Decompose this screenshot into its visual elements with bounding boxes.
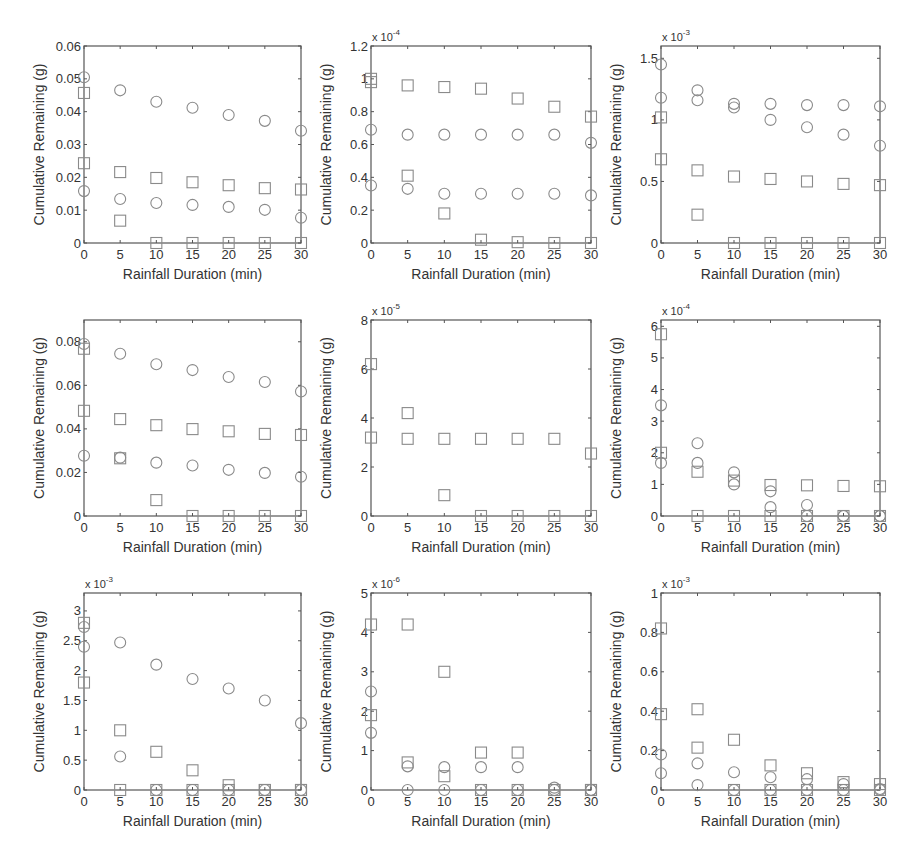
subplot-2: 05101520253000.20.40.60.811.2x 10-4Rainf…: [318, 28, 598, 282]
x-tick-label: 5: [117, 520, 124, 535]
y-tick-label: 0: [74, 236, 81, 251]
x-tick-label: 30: [584, 794, 598, 809]
x-tick-label: 5: [117, 794, 124, 809]
figure-grid: 05101520253000.010.020.030.040.050.06Rai…: [0, 0, 918, 862]
x-tick-label: 20: [800, 520, 814, 535]
x-tick-label: 25: [547, 247, 561, 262]
axes-frame: [661, 593, 880, 790]
x-tick-label: 5: [694, 247, 701, 262]
x-tick-label: 10: [727, 247, 741, 262]
x-tick-label: 0: [657, 520, 664, 535]
y-exponent-label: x 10-4: [372, 28, 400, 43]
y-tick-label: 0.6: [350, 137, 368, 152]
axes-frame: [371, 593, 591, 790]
x-tick-label: 25: [547, 520, 561, 535]
subplot-1: 05101520253000.010.020.030.040.050.06Rai…: [31, 39, 308, 283]
subplot-7: 05101520253000.511.522.53x 10-3Rainfall …: [31, 575, 308, 829]
axes-frame: [371, 46, 591, 243]
x-tick-label: 30: [873, 520, 887, 535]
x-tick-label: 5: [117, 247, 124, 262]
axes-frame: [661, 320, 880, 516]
y-tick-label: 3: [74, 603, 81, 618]
x-tick-label: 0: [80, 247, 87, 262]
y-tick-label: 8: [361, 313, 368, 328]
x-tick-label: 20: [221, 520, 235, 535]
y-tick-label: 3: [651, 414, 658, 429]
y-tick-label: 4: [651, 382, 658, 397]
x-tick-label: 10: [149, 520, 163, 535]
x-tick-label: 15: [763, 247, 777, 262]
axes-frame: [371, 320, 591, 516]
y-tick-label: 0.06: [56, 39, 81, 54]
y-tick-label: 2: [361, 704, 368, 719]
y-tick-label: 0.01: [56, 203, 81, 218]
y-tick-label: 6: [651, 319, 658, 334]
y-tick-label: 6: [361, 362, 368, 377]
x-tick-label: 15: [474, 247, 488, 262]
x-tick-label: 25: [258, 520, 272, 535]
x-tick-label: 25: [547, 794, 561, 809]
y-tick-label: 0.02: [56, 465, 81, 480]
x-tick-label: 0: [657, 794, 664, 809]
y-axis-label: Cumulative Remaining (g): [318, 337, 334, 499]
y-axis-label: Cumulative Remaining (g): [31, 64, 47, 226]
x-tick-label: 10: [437, 520, 451, 535]
y-tick-label: 0.8: [350, 104, 368, 119]
y-tick-label: 0: [651, 783, 658, 798]
y-axis-label: Cumulative Remaining (g): [608, 611, 624, 773]
x-tick-label: 30: [873, 794, 887, 809]
y-tick-label: 0.08: [56, 334, 81, 349]
y-exponent-label: x 10-3: [662, 575, 690, 590]
x-tick-label: 30: [873, 247, 887, 262]
x-tick-label: 15: [474, 520, 488, 535]
x-tick-label: 20: [510, 247, 524, 262]
y-tick-label: 2: [74, 663, 81, 678]
x-tick-label: 25: [836, 247, 850, 262]
x-axis-label: Rainfall Duration (min): [123, 539, 262, 555]
x-tick-label: 10: [437, 247, 451, 262]
x-tick-label: 25: [258, 794, 272, 809]
y-tick-label: 0.5: [63, 753, 81, 768]
y-tick-label: 1: [651, 112, 658, 127]
y-tick-label: 4: [361, 411, 368, 426]
x-tick-label: 20: [510, 520, 524, 535]
x-tick-label: 10: [727, 520, 741, 535]
x-tick-label: 0: [367, 794, 374, 809]
y-axis-label: Cumulative Remaining (g): [31, 337, 47, 499]
x-tick-label: 25: [258, 247, 272, 262]
x-tick-label: 25: [836, 794, 850, 809]
subplot-6: 0510152025300123456x 10-4Rainfall Durati…: [608, 302, 887, 555]
x-tick-label: 5: [404, 520, 411, 535]
x-tick-label: 15: [185, 247, 199, 262]
x-tick-label: 5: [404, 247, 411, 262]
x-tick-label: 0: [367, 520, 374, 535]
x-tick-label: 30: [584, 520, 598, 535]
y-exponent-label: x 10-4: [662, 302, 690, 317]
y-tick-label: 0: [651, 236, 658, 251]
x-tick-label: 15: [185, 520, 199, 535]
y-tick-label: 0: [74, 509, 81, 524]
subplot-4: 05101520253000.020.040.060.08Rainfall Du…: [31, 320, 308, 555]
y-tick-label: 0: [361, 509, 368, 524]
x-tick-label: 15: [185, 794, 199, 809]
x-axis-label: Rainfall Duration (min): [411, 539, 550, 555]
x-tick-label: 5: [404, 794, 411, 809]
y-tick-label: 1: [651, 477, 658, 492]
subplot-9: 05101520253000.20.40.60.81x 10-3Rainfall…: [608, 575, 887, 829]
y-tick-label: 2: [361, 460, 368, 475]
x-tick-label: 15: [474, 794, 488, 809]
x-axis-label: Rainfall Duration (min): [701, 539, 840, 555]
x-tick-label: 10: [727, 794, 741, 809]
y-tick-label: 0: [74, 783, 81, 798]
x-tick-label: 10: [149, 794, 163, 809]
y-axis-label: Cumulative Remaining (g): [608, 337, 624, 499]
x-axis-label: Rainfall Duration (min): [701, 266, 840, 282]
x-tick-label: 5: [694, 520, 701, 535]
chart-canvas: 05101520253000.010.020.030.040.050.06Rai…: [0, 0, 918, 862]
x-axis-label: Rainfall Duration (min): [701, 813, 840, 829]
x-tick-label: 20: [510, 794, 524, 809]
x-tick-label: 30: [294, 247, 308, 262]
y-exponent-label: x 10-6: [372, 575, 400, 590]
y-tick-label: 0.4: [350, 170, 368, 185]
x-tick-label: 15: [763, 794, 777, 809]
